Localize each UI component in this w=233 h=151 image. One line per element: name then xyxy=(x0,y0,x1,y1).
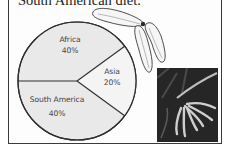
plant-photo-icon xyxy=(157,68,218,142)
plant-photograph xyxy=(157,68,218,142)
